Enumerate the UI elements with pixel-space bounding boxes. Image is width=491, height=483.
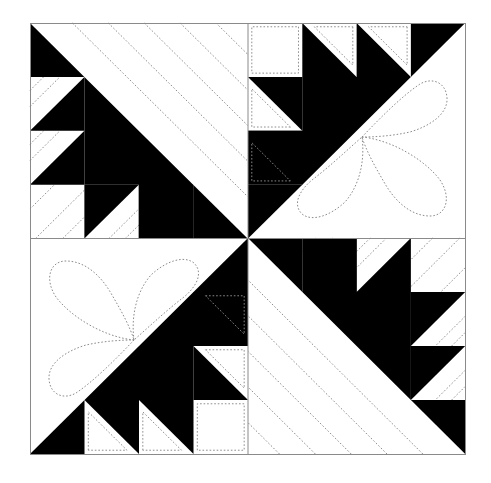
quadrant-top-left	[30, 23, 248, 239]
quadrant-bottom-left	[30, 238, 248, 454]
quadrant-bottom-right	[248, 238, 465, 454]
quilt-block-diagram	[0, 0, 491, 483]
quilt-block	[30, 23, 466, 455]
quadrant-top-right	[248, 23, 465, 239]
